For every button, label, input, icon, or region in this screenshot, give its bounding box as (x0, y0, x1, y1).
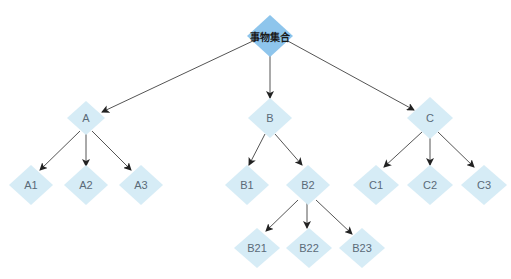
edge-arrow-b-b1 (249, 134, 265, 165)
node-b2[interactable]: B2 (286, 165, 330, 205)
node-label: 事物集合 (250, 29, 290, 44)
node-c1[interactable]: C1 (353, 165, 399, 205)
node-label: B1 (240, 179, 253, 191)
tree-diagram: 事物集合 A B C A1 A2 A3 B1 B2 C1 C2 C3 (0, 0, 511, 279)
node-a3[interactable]: A3 (119, 165, 163, 205)
node-label: C (426, 112, 434, 124)
node-a2[interactable]: A2 (64, 165, 108, 205)
node-c[interactable]: C (407, 97, 453, 139)
node-b22[interactable]: B22 (286, 228, 332, 268)
edge-arrow-root-c (286, 40, 414, 110)
node-label: B23 (352, 242, 372, 254)
node-label: B22 (299, 242, 319, 254)
node-label: B2 (301, 179, 314, 191)
node-a[interactable]: A (67, 101, 105, 135)
node-b[interactable]: B (248, 98, 292, 138)
node-a1[interactable]: A1 (9, 165, 53, 205)
node-b23[interactable]: B23 (339, 228, 385, 268)
node-label: A1 (24, 179, 37, 191)
node-label: C1 (369, 179, 383, 191)
node-label: C2 (423, 179, 437, 191)
node-b21[interactable]: B21 (234, 228, 280, 268)
node-b1[interactable]: B1 (225, 165, 269, 205)
node-label: B (266, 112, 273, 124)
node-c2[interactable]: C2 (407, 165, 453, 205)
node-label: A2 (79, 179, 92, 191)
node-c3[interactable]: C3 (461, 165, 507, 205)
node-label: B21 (247, 242, 267, 254)
node-label: A (82, 112, 89, 124)
node-root[interactable]: 事物集合 (247, 15, 293, 57)
node-label: A3 (134, 179, 147, 191)
edge-arrow-b-b2 (275, 134, 302, 165)
node-label: C3 (477, 179, 491, 191)
edge-arrow-root-a (102, 40, 255, 112)
